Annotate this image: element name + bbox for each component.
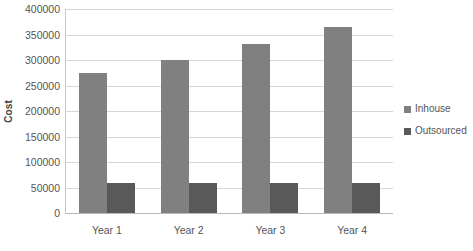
y-axis-tick-labels: 4000003500003000002500002000001500001000… (16, 0, 64, 222)
x-axis-tick-label: Year 1 (66, 224, 148, 236)
bar-outsourced-year-3 (270, 183, 298, 213)
y-axis-tick-label: 250000 (25, 80, 60, 91)
x-axis-tick-label: Year 3 (230, 224, 312, 236)
x-axis-tick-labels: Year 1Year 2Year 3Year 4 (66, 224, 393, 236)
bars-layer (66, 9, 393, 213)
y-axis-tick-label: 350000 (25, 29, 60, 40)
bar-inhouse-year-1 (79, 73, 107, 213)
bar-outsourced-year-1 (107, 183, 135, 213)
x-axis-tick-label: Year 4 (311, 224, 393, 236)
y-axis-tick-label: 300000 (25, 55, 60, 66)
bar-outsourced-year-2 (189, 183, 217, 213)
legend-swatch-icon (404, 106, 411, 113)
y-axis-tick-label: 50000 (31, 182, 60, 193)
legend-swatch-icon (404, 128, 411, 135)
legend-item-outsourced[interactable]: Outsourced (404, 126, 473, 136)
bar-inhouse-year-2 (161, 60, 189, 213)
x-axis-tick-label: Year 2 (148, 224, 230, 236)
bar-inhouse-year-3 (242, 44, 270, 213)
legend-item-inhouse[interactable]: Inhouse (404, 104, 473, 114)
y-axis-tick-label: 400000 (25, 4, 60, 15)
bar-group (230, 9, 312, 213)
bar-group (66, 9, 148, 213)
bar-group (311, 9, 393, 213)
y-axis-tick-label: 100000 (25, 157, 60, 168)
bar-outsourced-year-4 (352, 183, 380, 213)
legend-label: Outsourced (415, 126, 467, 136)
y-axis-title: Cost (0, 0, 16, 222)
chart-legend: InhouseOutsourced (404, 104, 473, 148)
bar-chart: Cost 40000035000030000025000020000015000… (0, 0, 473, 251)
y-axis-tick-label: 150000 (25, 131, 60, 142)
y-axis-title-label: Cost (3, 100, 14, 123)
plot-area (65, 9, 393, 214)
y-axis-tick-label: 0 (54, 208, 60, 219)
bar-inhouse-year-4 (324, 27, 352, 213)
bar-group (148, 9, 230, 213)
y-axis-tick-label: 200000 (25, 106, 60, 117)
legend-label: Inhouse (415, 104, 451, 114)
